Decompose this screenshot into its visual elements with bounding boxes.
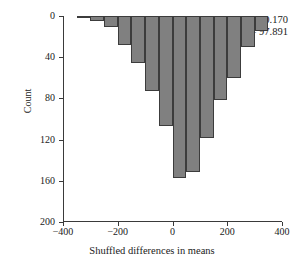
histogram-bar — [255, 16, 269, 31]
x-axis-tick-label: 200 — [207, 227, 247, 237]
y-axis-tick — [59, 57, 63, 58]
histogram-bar — [90, 16, 104, 21]
histogram-bar — [241, 16, 255, 47]
plot-area — [63, 16, 282, 222]
x-axis-tick-label: −400 — [43, 227, 83, 237]
y-axis-tick-label: 200 — [31, 217, 55, 227]
y-axis-tick — [59, 140, 63, 141]
y-axis-tick-label: 160 — [31, 176, 55, 186]
histogram-bar — [145, 16, 159, 91]
x-axis-tick-label: −200 — [98, 227, 138, 237]
histogram-bar — [77, 16, 91, 18]
histogram-bar — [159, 16, 173, 126]
histogram-bar — [118, 16, 132, 45]
histogram-bar — [227, 16, 241, 78]
x-axis-tick-label: 400 — [262, 227, 302, 237]
y-axis-tick-label: 80 — [31, 93, 55, 103]
histogram-bar — [214, 16, 228, 100]
histogram-bar — [131, 16, 145, 63]
histogram-bar — [186, 16, 200, 172]
y-axis-tick-label: 0 — [31, 11, 55, 21]
y-axis-tick — [59, 98, 63, 99]
y-axis-tick — [59, 16, 63, 17]
x-axis-tick-label: 0 — [153, 227, 193, 237]
y-axis-tick-label: 120 — [31, 135, 55, 145]
y-axis-tick — [59, 181, 63, 182]
histogram-bar — [173, 16, 187, 178]
histogram-bar — [200, 16, 214, 138]
histogram-bar — [104, 16, 118, 27]
x-axis-title: Shuffled differences in means — [0, 245, 304, 256]
y-axis-tick-label: 40 — [31, 52, 55, 62]
histogram-chart: Mean = 0.170 SD = 97.891 Count Shuffled … — [0, 0, 304, 265]
